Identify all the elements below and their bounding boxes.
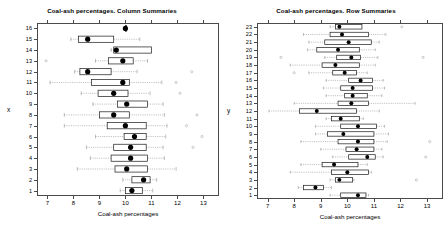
y-tick-label: 22 <box>235 31 252 37</box>
median-marker <box>356 140 360 144</box>
y-tick <box>254 111 257 112</box>
outlier-point <box>280 56 282 58</box>
box-rect <box>349 155 376 159</box>
median-marker <box>356 193 360 197</box>
boxplot-row <box>45 58 148 64</box>
x-tick-top <box>47 20 48 23</box>
y-tick-label: 15 <box>235 85 252 91</box>
y-tick <box>254 80 257 81</box>
y-tick-label: 5 <box>235 162 252 168</box>
boxplot-canvas-right <box>224 0 448 230</box>
x-tick <box>203 196 204 199</box>
boxplot-row <box>50 79 177 85</box>
box-rect <box>327 132 374 136</box>
x-tick <box>99 196 100 199</box>
y-tick-label: 6 <box>235 154 252 160</box>
outlier-point <box>422 56 424 58</box>
y-tick <box>254 134 257 135</box>
box-rect <box>300 109 357 113</box>
boxplot-row <box>315 132 388 136</box>
median-marker <box>123 123 128 128</box>
median-marker <box>337 178 341 182</box>
boxplot-row <box>71 36 140 42</box>
y-tick-label: 2 <box>15 177 32 183</box>
median-marker <box>359 78 363 82</box>
x-tick-label: 11 <box>371 203 377 209</box>
median-marker <box>337 25 341 29</box>
y-tick <box>34 137 37 138</box>
y-tick-label: 16 <box>235 77 252 83</box>
outlier-point <box>185 125 187 127</box>
y-tick <box>254 126 257 127</box>
x-tick <box>427 199 428 202</box>
outlier-point <box>191 71 193 73</box>
box-rect <box>331 170 368 174</box>
y-axis-label-left: x <box>7 106 10 113</box>
figure: Coal-ash percentages. Column Summaries 7… <box>0 0 448 230</box>
y-tick <box>34 50 37 51</box>
box-rect <box>330 32 369 36</box>
x-tick-top <box>125 20 126 23</box>
y-tick <box>34 61 37 62</box>
box-rect <box>80 69 111 75</box>
box-rect <box>341 193 366 197</box>
y-tick-label: 12 <box>235 108 252 114</box>
x-tick-top <box>73 20 74 23</box>
boxplot-row <box>323 86 384 90</box>
x-tick <box>347 199 348 202</box>
boxplot-row <box>290 63 375 67</box>
panel-column-summaries: Coal-ash percentages. Column Summaries 7… <box>0 0 224 230</box>
boxplot-row <box>321 147 382 151</box>
box-rect <box>346 147 374 151</box>
y-tick <box>34 169 37 170</box>
y-tick <box>254 180 257 181</box>
x-tick-top <box>400 20 401 23</box>
outlier-point <box>293 72 295 74</box>
y-tick-label: 19 <box>235 54 252 60</box>
boxplot-row <box>293 71 367 75</box>
box-rect <box>341 86 373 90</box>
boxplot-row <box>301 162 367 166</box>
box-rect <box>337 55 361 59</box>
boxplot-row <box>81 90 181 96</box>
boxplot-row <box>301 139 431 143</box>
y-tick <box>34 82 37 83</box>
median-marker <box>120 58 125 63</box>
median-marker <box>132 134 137 139</box>
x-tick-label: 12 <box>174 200 181 206</box>
y-tick-label: 6 <box>15 134 32 140</box>
y-tick <box>254 34 257 35</box>
x-tick-label: 7 <box>46 200 49 206</box>
x-axis-label-right: Coal-ash percentages <box>257 213 443 220</box>
y-tick <box>34 126 37 127</box>
x-tick <box>177 196 178 199</box>
median-marker <box>128 145 133 150</box>
outlier-point <box>196 114 198 116</box>
y-tick <box>254 188 257 189</box>
x-tick-label: 9 <box>319 203 322 209</box>
boxplot-row <box>330 25 403 29</box>
median-marker <box>351 86 355 90</box>
median-marker <box>111 91 116 96</box>
boxplot-row <box>111 47 151 53</box>
x-tick-label: 10 <box>344 203 351 209</box>
boxplot-row <box>123 25 128 31</box>
box-rect <box>345 93 368 97</box>
outlier-point <box>201 135 203 137</box>
median-marker <box>114 47 119 52</box>
x-tick-label: 13 <box>200 200 207 206</box>
x-tick-top <box>427 20 428 23</box>
y-tick <box>254 57 257 58</box>
y-tick-label: 17 <box>235 70 252 76</box>
y-tick-label: 16 <box>15 25 32 31</box>
y-tick <box>254 119 257 120</box>
median-marker <box>124 166 129 171</box>
outlier-point <box>45 60 47 62</box>
x-tick <box>374 199 375 202</box>
outlier-point <box>175 81 177 83</box>
y-tick <box>34 180 37 181</box>
y-tick-label: 23 <box>235 24 252 30</box>
median-marker <box>128 156 133 161</box>
box-rect <box>118 101 148 107</box>
median-marker <box>340 32 344 36</box>
